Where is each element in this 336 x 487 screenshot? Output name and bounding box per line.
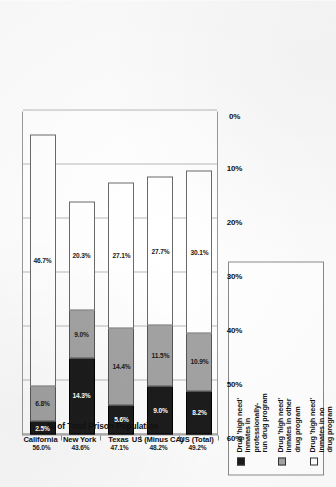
rotated-figure: Drug 'high need' inmates in professional…: [0, 0, 336, 487]
bar-total-label: 43.6%: [71, 443, 89, 450]
bar-total-label: 49.2%: [189, 443, 207, 450]
value-axis-tick-label: 30%: [227, 272, 242, 281]
legend-item-other: Drug 'high need' inmates in other drug p…: [277, 271, 302, 465]
value-axis-tick-label: 20%: [227, 218, 242, 227]
legend-swatch-black-icon: [237, 457, 245, 465]
bar-segment-value-label: 14.3%: [73, 392, 91, 399]
bar-total-label: 48.2%: [150, 443, 168, 450]
bar-segment-value-label: 27.7%: [151, 247, 169, 254]
table-row: 2.5%6.8%46.7%: [30, 134, 56, 434]
value-axis-title: % of Total Prison Population: [48, 421, 159, 431]
bar-segment-value-label: 20.3%: [73, 252, 91, 259]
bar-segment-value-label: 9.0%: [74, 330, 89, 337]
scanned-chart-page: Drug 'high need' inmates in professional…: [0, 0, 336, 487]
bar-total-label: 56.0%: [32, 443, 50, 450]
gridline: [23, 109, 217, 110]
bar-segment[interactable]: 27.7%: [147, 176, 173, 326]
table-row: 5.6%14.4%27.1%: [108, 182, 134, 434]
plot-area: 56.0%2.5%6.8%46.7%43.6%14.3%9.0%20.3%47.…: [22, 111, 218, 435]
value-axis-tick-label: 40%: [227, 326, 242, 335]
bar-segment[interactable]: 14.4%: [108, 327, 134, 405]
bar-segment[interactable]: 30.1%: [186, 170, 212, 333]
value-axis-tick-label: 10%: [227, 164, 242, 173]
bar-segment-value-label: 11.5%: [151, 352, 169, 359]
bar-segment-value-label: 46.7%: [33, 256, 51, 263]
category-axis-tick: [218, 435, 219, 440]
table-row: 8.2%10.9%30.1%: [186, 170, 212, 434]
bar-segment-value-label: 10.9%: [190, 358, 208, 365]
bar-segment[interactable]: 6.8%: [30, 385, 56, 422]
bar-segment[interactable]: 10.9%: [186, 332, 212, 391]
bar-segment[interactable]: 9.0%: [69, 309, 95, 358]
bar-segment-value-label: 14.4%: [112, 362, 130, 369]
bar-segment[interactable]: 8.2%: [186, 390, 212, 434]
legend-swatch-white-icon: [310, 457, 318, 465]
bar-total-label: 47.1%: [110, 443, 128, 450]
bar-segment-value-label: 27.1%: [112, 251, 130, 258]
legend-label-none: Drug 'high need' inmates in no drug prog…: [309, 397, 334, 452]
legend-label-other: Drug 'high need' inmates in other drug p…: [277, 397, 302, 452]
bar-segment-value-label: 6.8%: [35, 400, 50, 407]
table-row: 14.3%9.0%20.3%: [69, 201, 95, 434]
legend-item-none: Drug 'high need' inmates in no drug prog…: [309, 271, 334, 465]
bar-segment-value-label: 8.2%: [192, 408, 207, 415]
value-axis-tick-label: 0%: [229, 112, 240, 121]
bar-segment-value-label: 30.1%: [190, 248, 208, 255]
bar-segment[interactable]: 11.5%: [147, 324, 173, 386]
bar-segment[interactable]: 20.3%: [69, 201, 95, 311]
bar-segment-value-label: 9.0%: [153, 406, 168, 413]
legend-swatch-gray-icon: [278, 457, 286, 465]
bar-segment[interactable]: 46.7%: [30, 134, 56, 386]
value-axis-tick-label: 50%: [227, 380, 242, 389]
table-row: 9.0%11.5%27.7%: [147, 176, 173, 434]
bar-segment[interactable]: 27.1%: [108, 182, 134, 328]
category-axis-label: US (Total): [149, 435, 245, 444]
